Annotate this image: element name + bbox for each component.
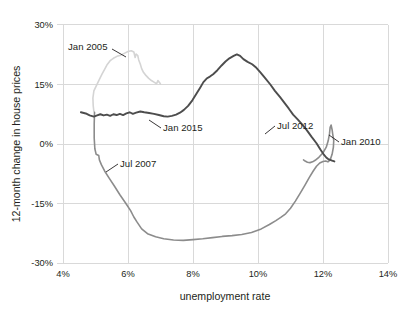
y-tick-label-3: -15% xyxy=(31,199,53,209)
y-tick-label-0: 30% xyxy=(34,20,53,30)
x-tick-label-3: 10% xyxy=(249,269,268,279)
connected-scatter-chart: 4%6%8%10%12%14% 30%15%0%-15%-30% Jan 200… xyxy=(0,0,412,314)
x-tick-label-2: 8% xyxy=(186,269,199,279)
y-axis-title: 12-month change in house prices xyxy=(10,66,22,223)
annotation-label-3: Jul 2012 xyxy=(277,120,313,131)
x-tick-label-4: 12% xyxy=(314,269,333,279)
annotation-label-0: Jan 2005 xyxy=(68,41,107,52)
y-tick-label-4: -30% xyxy=(31,258,53,268)
x-tick-label-5: 14% xyxy=(379,269,398,279)
y-tick-label-1: 15% xyxy=(34,80,53,90)
annotation-label-1: Jul 2007 xyxy=(120,158,156,169)
x-tick-label-1: 6% xyxy=(121,269,134,279)
chart-background xyxy=(0,0,412,314)
annotation-label-2: Jan 2015 xyxy=(163,122,202,133)
annotation-label-4: Jan 2010 xyxy=(341,136,380,147)
x-axis-title: unemployment rate xyxy=(180,290,271,302)
y-tick-label-2: 0% xyxy=(40,139,53,149)
chart-container: 4%6%8%10%12%14% 30%15%0%-15%-30% Jan 200… xyxy=(0,0,412,314)
x-tick-label-0: 4% xyxy=(56,269,69,279)
